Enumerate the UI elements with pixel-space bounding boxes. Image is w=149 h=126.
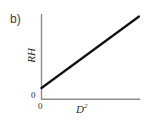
x-axis-origin-tick-label: 0	[38, 102, 43, 111]
x-axis-label: D2	[76, 103, 87, 115]
data-line-series-0	[42, 17, 140, 89]
plot-area	[0, 0, 149, 126]
y-axis-label: RH	[26, 41, 37, 71]
figure-panel-b: b) RH D2 0 0	[0, 0, 149, 126]
x-axis-label-exponent: 2	[84, 102, 88, 110]
x-axis-label-base: D	[76, 103, 84, 115]
y-axis-origin-tick-label: 0	[31, 91, 36, 100]
